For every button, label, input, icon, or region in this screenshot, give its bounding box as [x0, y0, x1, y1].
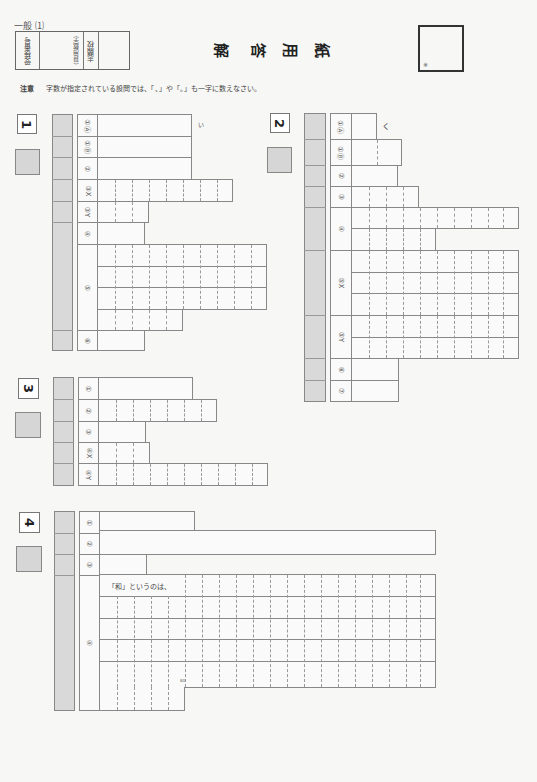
- s2-answer-3[interactable]: [351, 186, 419, 208]
- s1-answer-1a[interactable]: [97, 114, 192, 137]
- s1-label-6: ⑥: [77, 330, 98, 351]
- divider: [53, 442, 74, 443]
- s1-answer-6[interactable]: [97, 330, 145, 351]
- s1-answer-3y[interactable]: [97, 201, 149, 223]
- s1-answer-5[interactable]: [97, 244, 267, 310]
- divider: [304, 165, 326, 166]
- s4-label-2: ②: [79, 533, 100, 555]
- s4-limit-mark: 80: [180, 678, 185, 683]
- s4-prompt: 「和」というのは、: [108, 581, 171, 591]
- divider: [304, 207, 326, 208]
- s2-label-7: ⑦: [330, 380, 352, 402]
- s1-label-3y: ③Y: [77, 201, 98, 223]
- divider: [53, 463, 74, 464]
- s1-answer-5-last[interactable]: [97, 309, 183, 331]
- school-label: 志願校: [84, 35, 98, 67]
- examinee-info-box: 受検番号 (算用数字) 志願校: [15, 31, 130, 70]
- divider: [54, 533, 75, 534]
- exam-label-text: 一般 ⑴: [14, 21, 44, 31]
- s1-label-1b: ①Ⓑ: [77, 136, 98, 158]
- s4-answer-3[interactable]: [99, 554, 147, 576]
- s2-label-6: ⑥: [330, 358, 352, 381]
- section-3-number: 3: [18, 378, 39, 399]
- section-2-number: 2: [270, 113, 290, 133]
- examinee-number-label: 受検番号: [18, 35, 38, 67]
- divider: [52, 179, 73, 180]
- s1-label-4: ④: [77, 222, 98, 245]
- s4-answer-2[interactable]: [99, 530, 436, 555]
- s2-label-4: ④: [330, 207, 352, 251]
- s3-answer-4x[interactable]: [98, 442, 150, 464]
- s2-answer-5x[interactable]: [351, 250, 519, 316]
- total-score-box[interactable]: ※: [418, 25, 464, 72]
- s3-label-1: ①: [78, 377, 99, 400]
- section-1-score-column: [52, 114, 73, 351]
- s2-answer-6[interactable]: [351, 358, 399, 381]
- divider: [54, 554, 75, 555]
- s2-label-2: ②: [330, 165, 352, 187]
- total-score-mark: ※: [423, 61, 428, 68]
- s1-answer-2[interactable]: [97, 157, 192, 180]
- divider: [304, 358, 326, 359]
- s3-label-4y: ④Y: [78, 463, 99, 486]
- section-1-score-box[interactable]: [15, 149, 40, 175]
- s3-answer-1[interactable]: [98, 377, 193, 400]
- divider: [304, 186, 326, 187]
- page-title: 解: [215, 40, 230, 61]
- divider: [52, 157, 73, 158]
- section-1-number: 1: [17, 114, 37, 134]
- s2-label-1a: ①Ⓐ: [330, 113, 352, 140]
- s2-label-5y: ⑤Y: [330, 315, 352, 359]
- page-title-2: 答: [252, 40, 267, 61]
- s3-answer-2[interactable]: [98, 399, 217, 422]
- s1-label-2: ②: [77, 157, 98, 180]
- divider: [52, 330, 73, 331]
- s2-label-3: ③: [330, 186, 352, 208]
- school-field[interactable]: [99, 32, 129, 69]
- divider: [54, 575, 75, 576]
- s3-label-3: ③: [78, 421, 99, 443]
- s3-label-2: ②: [78, 399, 99, 422]
- s2-label-1b: ①Ⓑ: [330, 139, 352, 166]
- page-title-4: 紙: [316, 40, 331, 61]
- section-3-score-box[interactable]: [15, 412, 41, 438]
- section-2-score-box[interactable]: [267, 147, 292, 173]
- divider: [304, 315, 326, 316]
- divider: [53, 399, 74, 400]
- s4-label-4: ④: [79, 575, 100, 711]
- s2-answer-5y[interactable]: [351, 315, 519, 359]
- divider: [52, 222, 73, 223]
- s2-label-5x: ⑤X: [330, 250, 352, 316]
- s4-composition-last[interactable]: [99, 687, 185, 711]
- s1-answer-1b[interactable]: [97, 136, 192, 158]
- s1-label-5: ⑤: [77, 244, 98, 331]
- s2-answer-1b[interactable]: [351, 139, 402, 166]
- divider: [304, 380, 326, 381]
- s2-answer-4-line2[interactable]: [351, 228, 436, 251]
- divider: [304, 139, 326, 140]
- section-4-score-box[interactable]: [16, 546, 42, 572]
- section-4-number: 4: [19, 512, 40, 533]
- s4-composition-grid[interactable]: 「和」というのは、: [99, 574, 436, 688]
- note-label: 注意: [20, 85, 34, 93]
- s2-answer-4[interactable]: [351, 207, 519, 229]
- divider: [52, 136, 73, 137]
- s4-label-1: ①: [79, 511, 100, 534]
- s1-label-1a: ①Ⓐ: [77, 114, 98, 137]
- note: 注意 字数が指定されている設問では、「、」や「。」も一字に数えなさい。: [20, 83, 261, 93]
- divider: [52, 201, 73, 202]
- s1-label-3x: ③X: [77, 179, 98, 202]
- note-text: 字数が指定されている設問では、「、」や「。」も一字に数えなさい。: [46, 85, 261, 93]
- s2-answer-2[interactable]: [351, 165, 398, 187]
- page-title-3: 用: [284, 40, 299, 61]
- divider: [53, 421, 74, 422]
- s2-answer-1a[interactable]: [351, 113, 377, 140]
- s1-suffix: い: [198, 120, 204, 129]
- s4-label-3: ③: [79, 554, 100, 576]
- examinee-number-field[interactable]: (算用数字): [40, 32, 83, 69]
- s1-answer-4[interactable]: [97, 222, 145, 245]
- s3-answer-4y[interactable]: [98, 463, 268, 486]
- s3-answer-3[interactable]: [98, 421, 146, 443]
- s2-answer-7[interactable]: [351, 380, 399, 402]
- s1-answer-3x[interactable]: [97, 179, 233, 202]
